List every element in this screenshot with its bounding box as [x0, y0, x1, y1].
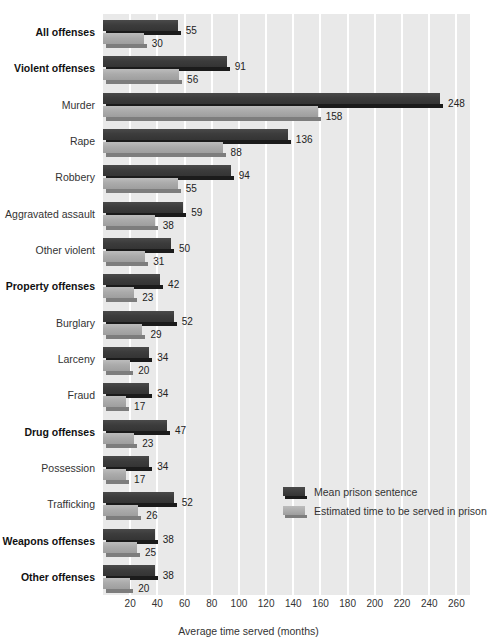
bar-value-label: 158	[326, 112, 343, 122]
bar-mean-sentence	[103, 347, 149, 358]
bar-mean-sentence	[103, 165, 231, 176]
category-label: Trafficking	[47, 499, 95, 510]
category-label: Burglary	[56, 318, 95, 329]
x-axis-tick: 60	[179, 599, 190, 609]
bar-mean-sentence	[103, 20, 178, 31]
bar-time-served	[103, 69, 179, 80]
bar-mean-sentence	[103, 529, 155, 540]
x-axis-tick: 100	[231, 599, 248, 609]
chart-figure: 20406080100120140160180200220240260 Aver…	[0, 0, 497, 643]
bar-time-served	[103, 142, 223, 153]
bar-mean-sentence	[103, 311, 174, 322]
bar-time-served	[103, 433, 134, 444]
bar-mean-sentence	[103, 129, 288, 140]
bar-value-label: 29	[150, 330, 161, 340]
bar-value-label: 42	[168, 280, 179, 290]
bar-time-served	[103, 251, 145, 262]
bar-value-label: 55	[186, 184, 197, 194]
category-label: Weapons offenses	[2, 536, 95, 547]
category-label: Murder	[62, 100, 95, 111]
bar-value-label: 17	[134, 402, 145, 412]
bar-mean-sentence	[103, 456, 149, 467]
category-label: Possession	[41, 463, 95, 474]
bar-mean-sentence	[103, 383, 149, 394]
legend-swatch-time-served	[283, 506, 305, 515]
bar-time-served	[103, 542, 137, 553]
x-axis-title: Average time served (months)	[0, 625, 497, 637]
bar-value-label: 136	[296, 135, 313, 145]
category-label: All offenses	[35, 27, 95, 38]
category-label: Aggravated assault	[5, 209, 95, 220]
bar-value-label: 88	[231, 148, 242, 158]
category-label: Drug offenses	[24, 427, 95, 438]
x-axis-tick: 40	[152, 599, 163, 609]
category-label: Property offenses	[6, 281, 95, 292]
bar-time-served	[103, 178, 178, 189]
bar-value-label: 23	[142, 439, 153, 449]
bar-value-label: 23	[142, 293, 153, 303]
category-label: Other violent	[35, 245, 95, 256]
bar-value-label: 30	[152, 39, 163, 49]
category-label: Rape	[70, 136, 95, 147]
bar-time-served	[103, 360, 130, 371]
category-label: Robbery	[55, 172, 95, 183]
bar-value-label: 17	[134, 475, 145, 485]
bar-mean-sentence	[103, 93, 440, 104]
bar-time-served	[103, 33, 144, 44]
legend-swatch-mean-sentence	[283, 487, 305, 496]
bar-time-served	[103, 469, 126, 480]
x-axis-tick: 140	[285, 599, 302, 609]
bar-time-served	[103, 215, 155, 226]
x-axis-tick: 80	[206, 599, 217, 609]
bar-value-label: 20	[138, 584, 149, 594]
category-label: Larceny	[58, 354, 95, 365]
bar-value-label: 38	[163, 571, 174, 581]
bar-value-label: 248	[448, 99, 465, 109]
bar-value-label: 47	[175, 426, 186, 436]
x-axis-tick: 260	[448, 599, 465, 609]
bar-time-served	[103, 396, 126, 407]
x-axis-tick: 180	[339, 599, 356, 609]
bar-value-label: 52	[182, 317, 193, 327]
x-axis-tick: 220	[394, 599, 411, 609]
x-axis-tick: 240	[421, 599, 438, 609]
bar-mean-sentence	[103, 202, 183, 213]
x-axis-tick-labels: 20406080100120140160180200220240260	[0, 599, 497, 615]
bar-value-label: 31	[153, 257, 164, 267]
bar-time-served	[103, 106, 318, 117]
bar-time-served	[103, 287, 134, 298]
legend-label: Mean prison sentence	[314, 486, 417, 498]
bar-mean-sentence	[103, 274, 160, 285]
bar-value-label: 38	[163, 221, 174, 231]
legend-label: Estimated time to be served in prison	[314, 505, 487, 517]
bar-value-label: 50	[179, 244, 190, 254]
x-axis-tick: 120	[258, 599, 275, 609]
bar-value-label: 52	[182, 498, 193, 508]
bar-value-label: 25	[145, 548, 156, 558]
x-axis-tick: 20	[125, 599, 136, 609]
bar-value-label: 38	[163, 535, 174, 545]
bar-mean-sentence	[103, 56, 227, 67]
bar-mean-sentence	[103, 492, 174, 503]
x-axis-tick: 160	[312, 599, 329, 609]
bar-time-served	[103, 505, 138, 516]
bar-value-label: 26	[146, 511, 157, 521]
bar-mean-sentence	[103, 238, 171, 249]
category-label: Fraud	[68, 390, 95, 401]
bar-value-label: 34	[157, 462, 168, 472]
bar-value-label: 55	[186, 26, 197, 36]
category-label: Other offenses	[21, 572, 95, 583]
bar-time-served	[103, 578, 130, 589]
bar-value-label: 56	[187, 75, 198, 85]
bar-value-label: 34	[157, 389, 168, 399]
bar-value-label: 91	[235, 62, 246, 72]
category-label: Violent offenses	[14, 63, 95, 74]
bar-value-label: 94	[239, 171, 250, 181]
bar-value-label: 59	[191, 208, 202, 218]
bar-mean-sentence	[103, 565, 155, 576]
bar-value-label: 34	[157, 353, 168, 363]
x-axis-tick: 200	[367, 599, 384, 609]
bar-mean-sentence	[103, 420, 167, 431]
bar-value-label: 20	[138, 366, 149, 376]
bar-time-served	[103, 324, 142, 335]
